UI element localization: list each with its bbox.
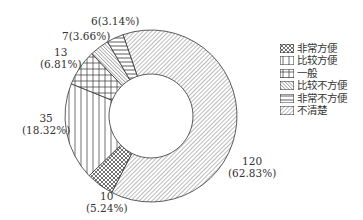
pattern-swatch-icon (280, 56, 294, 65)
legend-item-unclear: 不清楚 (280, 105, 347, 118)
chart-legend: 非常方便 比较方便 一般 比较不方便 非常不方便 不清楚 (280, 42, 347, 117)
label-very-convenient: 10(5.24%) (86, 190, 128, 214)
pattern-swatch-icon (280, 69, 294, 78)
pattern-swatch-icon (280, 106, 294, 115)
legend-item-fairly-inconvenient: 比较不方便 (280, 80, 347, 93)
legend-item-fairly-convenient: 比较方便 (280, 55, 347, 68)
legend-item-very-convenient: 非常方便 (280, 42, 347, 55)
label-fairly-inconvenient: 7(3.66%) (62, 30, 110, 42)
legend-item-very-inconvenient: 非常不方便 (280, 92, 347, 105)
pattern-swatch-icon (280, 94, 294, 103)
label-very-inconvenient: 6(3.14%) (91, 15, 139, 27)
label-fairly-convenient: 35(18.32%) (22, 112, 70, 136)
legend-item-average: 一般 (280, 67, 347, 80)
pattern-swatch-icon (280, 44, 294, 53)
label-average: 13(6.81%) (40, 46, 82, 70)
pattern-swatch-icon (280, 81, 294, 90)
label-unclear: 120(62.83%) (228, 155, 276, 179)
